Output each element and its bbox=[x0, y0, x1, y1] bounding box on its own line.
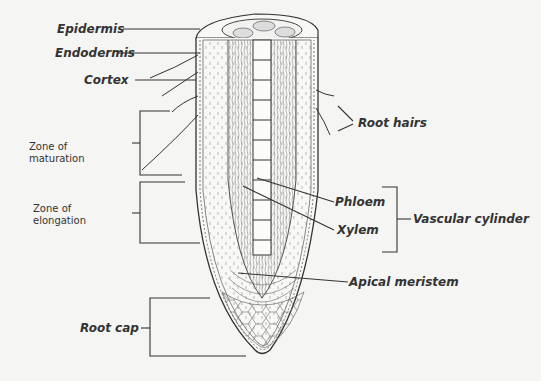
label-zone-of-maturation: Zone of maturation bbox=[29, 141, 85, 165]
label-zone-of-elongation: Zone of elongation bbox=[33, 203, 86, 227]
zone-maturation-line1: Zone of bbox=[29, 141, 85, 153]
label-vascular-cylinder: Vascular cylinder bbox=[413, 212, 529, 226]
root-tip-diagram: Epidermis Endodermis Cortex Zone of matu… bbox=[0, 0, 541, 381]
label-cortex: Cortex bbox=[84, 73, 129, 87]
zone-maturation-line2: maturation bbox=[29, 153, 85, 165]
label-root-hairs: Root hairs bbox=[358, 116, 427, 130]
label-phloem: Phloem bbox=[335, 195, 385, 209]
label-root-cap: Root cap bbox=[80, 321, 139, 335]
root-body bbox=[142, 14, 334, 354]
zone-elongation-line2: elongation bbox=[33, 215, 86, 227]
label-endodermis: Endodermis bbox=[55, 46, 135, 60]
label-apical-meristem: Apical meristem bbox=[349, 275, 459, 289]
label-epidermis: Epidermis bbox=[57, 22, 124, 36]
label-xylem: Xylem bbox=[337, 223, 379, 237]
zone-elongation-line1: Zone of bbox=[33, 203, 86, 215]
